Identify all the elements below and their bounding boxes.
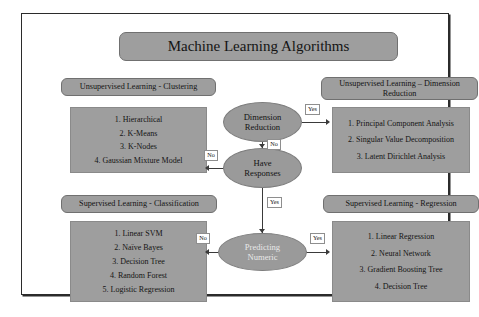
decision-node-dimension-reduction: Dimension Reduction	[223, 102, 302, 142]
section-header-dimension-reduction: Unsupervised Learning – Dimension Reduct…	[321, 77, 478, 100]
edge-label-prednum-yes: Yes	[310, 233, 325, 244]
edge-label-prednum-no: No	[196, 233, 210, 244]
list-item: 2. K-Means	[71, 129, 206, 138]
list-item: 4. Decision Tree	[333, 282, 469, 291]
section-header-clustering: Unsupervised Learning - Clustering	[61, 78, 216, 96]
edge-prednum-no-arrowhead	[205, 249, 209, 255]
diagram-frame: Machine Learning Algorithms Unsupervised…	[21, 13, 449, 295]
list-item: 1. Linear Regression	[333, 232, 469, 241]
section-header-regression: Supervised Learning - Regression	[323, 195, 479, 213]
algorithm-list-classification: 1. Linear SVM 2. Naïve Bayes 3. Decision…	[70, 221, 207, 302]
section-header-classification: Supervised Learning - Classification	[61, 195, 217, 213]
algorithm-list-regression: 1. Linear Regression 2. Neural Network 3…	[332, 221, 470, 302]
list-item: 2. Neural Network	[333, 249, 469, 258]
edge-prednum-yes-arrowhead	[326, 249, 330, 255]
edge-label-haveresp-no: No	[204, 150, 218, 161]
list-item: 1. Principal Component Analysis	[333, 119, 469, 128]
decision-node-predicting-numeric-line2: Numeric	[247, 252, 277, 262]
list-item: 1. Hierarchical	[71, 115, 206, 124]
section-header-dimension-reduction-line1: Unsupervised Learning – Dimension	[339, 79, 460, 88]
list-item: 2. Naïve Bayes	[71, 243, 206, 252]
edge-dimred-yes-arrowhead	[326, 119, 330, 125]
edge-prednum-yes-line	[306, 252, 328, 253]
list-item: 4. Random Forest	[71, 271, 206, 280]
list-item: 3. Decision Tree	[71, 257, 206, 266]
edge-label-dimred-yes: Yes	[305, 104, 320, 115]
edge-label-dimred-no: No	[267, 139, 281, 150]
decision-node-dimension-reduction-line2: Reduction	[245, 122, 280, 132]
decision-node-predicting-numeric-line1: Predicting	[245, 242, 280, 252]
list-item: 5. Logistic Regression	[71, 285, 206, 294]
algorithm-list-clustering: 1. Hierarchical 2. K-Means 3. K-Nodes 4.…	[70, 107, 207, 173]
list-item: 2. Singular Value Decomposition	[333, 135, 469, 144]
decision-node-dimension-reduction-line1: Dimension	[244, 112, 282, 122]
edge-label-haveresp-yes: Yes	[267, 197, 282, 208]
algorithm-list-dimension-reduction: 1. Principal Component Analysis 2. Singu…	[332, 107, 470, 173]
decision-node-have-responses-line2: Responses	[244, 168, 280, 178]
list-item: 1. Linear SVM	[71, 229, 206, 238]
decision-node-predicting-numeric: Predicting Numeric	[218, 233, 307, 271]
diagram-title: Machine Learning Algorithms	[119, 32, 398, 61]
edge-haveresp-yes-line	[262, 188, 263, 233]
section-header-dimension-reduction-line2: Reduction	[339, 89, 460, 98]
edge-dimred-yes-line	[302, 122, 327, 123]
edge-haveresp-no-arrowhead	[205, 165, 209, 171]
list-item: 3. K-Nodes	[71, 142, 206, 151]
list-item: 3. Gradient Boosting Tree	[333, 265, 469, 274]
list-item: 3. Latent Dirichlet Analysis	[333, 152, 469, 161]
decision-node-have-responses: Have Responses	[223, 148, 302, 188]
decision-node-have-responses-line1: Have	[253, 158, 271, 168]
list-item: 4. Gaussian Mixture Model	[71, 156, 206, 165]
